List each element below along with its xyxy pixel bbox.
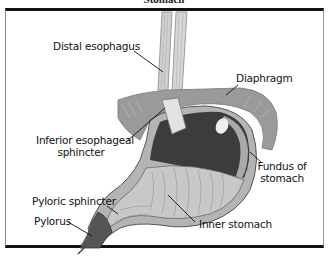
label-diaphragm: Diaphragm	[236, 72, 293, 84]
label-inferior-esophageal-sphincter-line1: Inferior esophageal	[36, 134, 126, 146]
label-fundus-line1: Fundus of	[252, 160, 312, 172]
esophagus-tube	[158, 12, 187, 92]
label-inferior-esophageal-sphincter-line2: sphincter	[36, 146, 126, 158]
label-distal-esophagus: Distal esophagus	[53, 40, 140, 52]
label-inner-stomach: Inner stomach	[199, 218, 272, 230]
label-fundus-line2: stomach	[252, 172, 312, 184]
label-pylorus: Pylorus	[34, 215, 71, 227]
leader-distal-esophagus	[134, 51, 163, 72]
label-pyloric-sphincter: Pyloric sphincter	[32, 195, 116, 207]
